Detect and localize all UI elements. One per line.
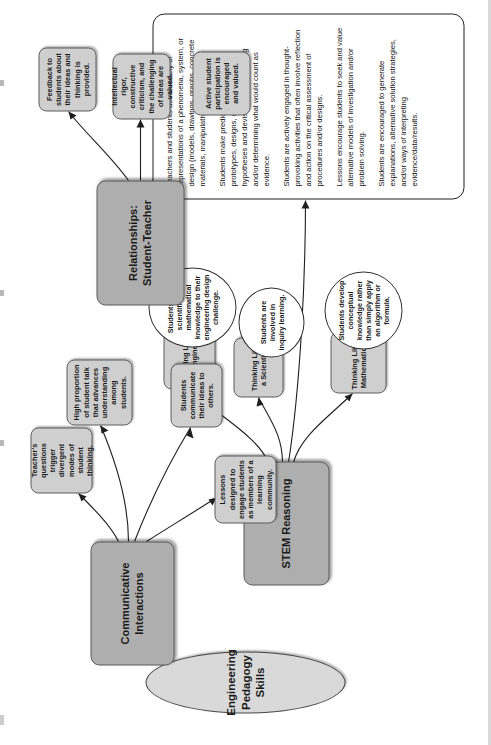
diagram-title-text: Engineering Pedagogy Skills xyxy=(223,649,266,715)
category-box-relationships-student-teacher[interactable]: Relationships: Student-Teacher xyxy=(96,180,184,305)
indicator-label-feedback-to-students: Feedback to students about their ideas a… xyxy=(44,51,90,107)
indicator-label-lessons-designed-engage: Lessons designed to engage students as m… xyxy=(217,459,273,519)
indicator-label-students-communicate-ideas: Students communicate their ideas to othe… xyxy=(178,367,215,423)
note-ellipse-thinking-like-a-scientist: Students are involved in inquiry learnin… xyxy=(238,287,304,357)
indicator-box-teachers-questions[interactable]: Teacher's questions trigger divergent mo… xyxy=(30,427,92,493)
category-label-stem-reasoning: STEM Reasoning xyxy=(279,478,293,568)
indicator-label-high-proportion-student-talk: High proportion of student talk that adv… xyxy=(71,363,127,421)
category-box-communicative-interactions[interactable]: Communicative Interactions xyxy=(90,541,174,665)
indicator-box-feedback-to-students[interactable]: Feedback to students about their ideas a… xyxy=(38,47,96,111)
diagram-title-ellipse: Engineering Pedagogy Skills xyxy=(145,651,345,713)
descriptor-item: Lessons encourage students to seek and v… xyxy=(333,26,366,186)
indicator-label-active-student-participation: Active student participation is encourag… xyxy=(203,55,240,111)
descriptor-item: Students are encouraged to generate expl… xyxy=(375,26,419,186)
descriptor-item: Students are actively engaged in thought… xyxy=(280,26,324,186)
indicator-box-lessons-designed-engage[interactable]: Lessons designed to engage students as m… xyxy=(214,455,276,523)
indicator-label-teachers-questions: Teacher's questions trigger divergent mo… xyxy=(29,431,94,489)
category-label-relationships-student-teacher: Relationships: Student-Teacher xyxy=(126,181,154,304)
note-ellipse-thinking-like-a-mathematician: Students develop conceptual knowledge ra… xyxy=(324,271,402,349)
note-text-thinking-like-a-scientist: Students are involved in inquiry learnin… xyxy=(258,294,285,350)
indicator-box-active-student-participation[interactable]: Active student participation is encourag… xyxy=(192,51,250,115)
indicator-box-intellectual-rigor[interactable]: Intellectual rigor, constructive critici… xyxy=(112,53,170,119)
indicator-box-students-communicate-ideas[interactable]: Students communicate their ideas to othe… xyxy=(170,363,222,427)
diagram-canvas: Engineering Pedagogy Skills STEM Reasoni… xyxy=(0,0,491,745)
note-text-thinking-like-a-mathematician: Students develop conceptual knowledge ra… xyxy=(336,278,390,342)
indicator-box-high-proportion-student-talk[interactable]: High proportion of student talk that adv… xyxy=(66,359,132,425)
category-label-communicative-interactions: Communicative Interactions xyxy=(118,542,146,664)
indicator-label-intellectual-rigor: Intellectual rigor, constructive critici… xyxy=(109,57,174,115)
